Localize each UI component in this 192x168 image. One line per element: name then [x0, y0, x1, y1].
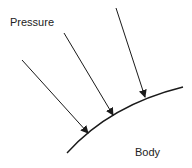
body-label: Body: [135, 146, 160, 158]
pressure-arrow-icon: [22, 60, 88, 133]
pressure-label: Pressure: [10, 16, 54, 28]
pressure-arrow-icon: [64, 33, 113, 115]
pressure-arrow-icon: [116, 8, 145, 97]
body-surface-curve: [67, 87, 183, 153]
